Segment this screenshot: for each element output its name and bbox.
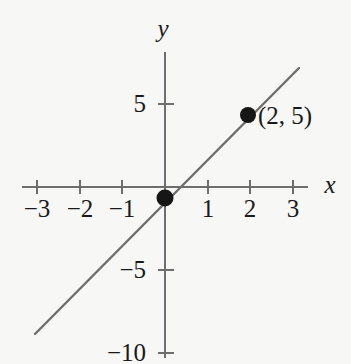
y-intercept-point [157, 190, 174, 207]
y-axis-label: y [146, 16, 180, 41]
x-tick-label--3: −3 [15, 196, 59, 221]
y-tick-label--5: −5 [100, 257, 146, 282]
x-tick-label-1: 1 [192, 196, 224, 221]
graph-figure: y x −3 −2 −1 1 2 3 5 −5 −10 (2, 5) [0, 0, 351, 364]
coordinate-plane [0, 0, 351, 364]
y-tick-label-5: 5 [112, 91, 146, 116]
x-tick-label--1: −1 [100, 196, 144, 221]
point-annotation-label: (2, 5) [258, 103, 348, 128]
labeled-point [240, 107, 256, 123]
x-tick-label-2: 2 [234, 196, 266, 221]
x-axis-label: x [316, 172, 344, 197]
x-tick-label--2: −2 [58, 196, 102, 221]
y-tick-label--10: −10 [88, 340, 146, 364]
x-tick-label-3: 3 [277, 196, 309, 221]
